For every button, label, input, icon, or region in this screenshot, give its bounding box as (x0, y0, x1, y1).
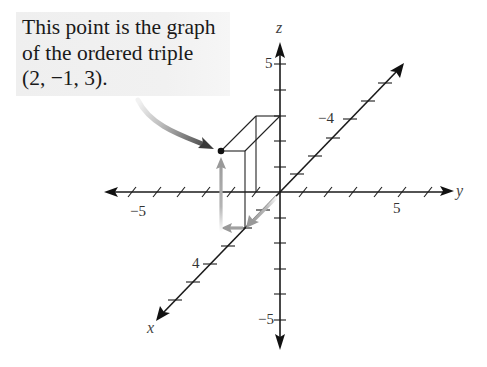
guide-arrow-y (221, 223, 243, 233)
x-axis-label: x (147, 320, 154, 336)
z-tick-label-neg5: −5 (258, 312, 274, 327)
callout-arrow (138, 100, 214, 149)
axes-graphic (0, 0, 487, 367)
plotted-point (218, 148, 225, 155)
y-axis-label: y (456, 183, 463, 199)
x-tick-label-neg4: −4 (318, 111, 334, 126)
z-tick-label-5: 5 (265, 56, 273, 71)
guide-arrow-z (216, 157, 226, 232)
coordinate-box (221, 116, 280, 228)
y-tick-label-neg5: −5 (130, 204, 146, 219)
3d-coordinate-diagram: This point is the graph of the ordered t… (0, 0, 487, 367)
y-tick-label-5: 5 (393, 201, 401, 216)
x-tick-label-4: 4 (192, 256, 200, 271)
guide-arrow-x (246, 197, 277, 228)
y-axis (104, 186, 454, 197)
z-axis-label: z (276, 20, 282, 36)
